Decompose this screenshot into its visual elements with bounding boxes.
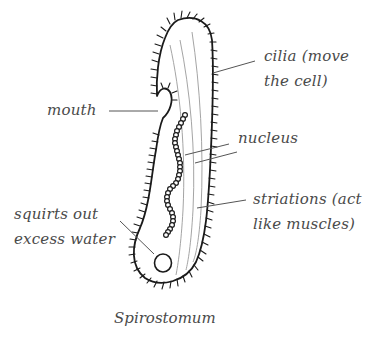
striations-leader <box>197 200 246 208</box>
spirostomum-diagram: cilia (move the cell) mouth nucleus stri… <box>0 0 381 337</box>
nucleus-label: nucleus <box>238 126 298 151</box>
striations <box>170 32 202 275</box>
cilia-label-line1: cilia (move <box>264 44 349 69</box>
vacuole-label-line2: excess water <box>14 227 115 252</box>
striations-label: striations (act like muscles) <box>253 187 362 237</box>
diagram-title: Spirostomum <box>114 309 216 327</box>
vacuole-leader <box>120 221 154 254</box>
nucleus-leader-1 <box>185 144 229 155</box>
striations-label-line2: like muscles) <box>253 212 362 237</box>
mouth-label-line1: mouth <box>47 98 97 123</box>
vacuole-label: squirts out excess water <box>14 202 115 252</box>
cilia-label: cilia (move the cell) <box>264 44 349 94</box>
nucleus-label-line1: nucleus <box>238 126 298 151</box>
mouth-label: mouth <box>47 98 97 123</box>
striations-label-line1: striations (act <box>253 187 362 212</box>
vacuole-label-line1: squirts out <box>14 202 115 227</box>
cilia-leader <box>213 61 255 73</box>
cilia-label-line2: the cell) <box>264 69 349 94</box>
cell-body-outline <box>134 18 213 283</box>
nucleus-leader-2 <box>195 152 237 163</box>
contractile-vacuole <box>155 254 172 272</box>
